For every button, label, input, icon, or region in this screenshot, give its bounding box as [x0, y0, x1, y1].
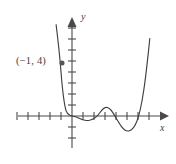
y-axis	[68, 17, 77, 148]
y-axis-arrowhead	[68, 17, 77, 27]
polynomial-curve	[56, 25, 150, 131]
labeled-point-dot	[60, 61, 65, 66]
labeled-point-text: (−1, 4)	[16, 56, 46, 67]
y-axis-label: y	[81, 12, 85, 22]
coordinate-plot	[0, 0, 176, 164]
x-axis-label: x	[160, 123, 164, 133]
graph-figure: (−1, 4) y x	[0, 0, 176, 164]
x-axis-arrowhead	[160, 112, 169, 121]
